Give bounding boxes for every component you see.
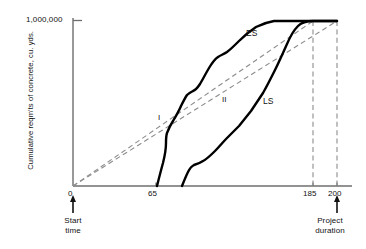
reference-label-ii: II xyxy=(222,95,227,104)
reference-line-ii xyxy=(73,21,313,186)
x-tick-label-65: 65 xyxy=(148,189,157,198)
y-tick-label-1000000: 1,000,000 xyxy=(26,15,63,24)
annotation-project-duration: Project duration xyxy=(298,216,362,236)
annotation-project-duration-line1: Project xyxy=(298,216,362,226)
series-label-ls: LS xyxy=(263,97,274,107)
y-axis-title: Cumulative reqm'ts of concrete, cu. yds. xyxy=(27,25,36,175)
x-tick-label-0: 0 xyxy=(68,189,73,198)
x-tick-label-185: 185 xyxy=(303,189,317,198)
annotation-project-duration-line2: duration xyxy=(298,226,362,236)
series-label-es: ES xyxy=(246,29,258,39)
series-curve-es xyxy=(157,21,337,186)
annotation-start-time-line1: Start xyxy=(44,216,102,226)
annotation-start-time-line2: time xyxy=(44,226,102,236)
chart-figure: Cumulative reqm'ts of concrete, cu. yds.… xyxy=(0,0,366,249)
reference-label-i: I xyxy=(158,113,160,122)
reference-line-i xyxy=(73,21,337,186)
annotation-start-time: Start time xyxy=(44,216,102,236)
x-tick-label-200: 200 xyxy=(328,189,342,198)
chart-plot-area xyxy=(0,0,366,249)
